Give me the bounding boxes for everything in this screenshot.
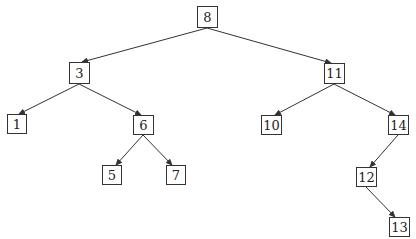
tree-node-5: 5 <box>102 165 122 185</box>
tree-node-3: 3 <box>69 62 90 84</box>
tree-node-14: 14 <box>388 115 409 135</box>
tree-node-10: 10 <box>261 115 282 135</box>
tree-node-12: 12 <box>356 167 377 187</box>
node-label: 5 <box>108 169 116 182</box>
edge-3-to-1 <box>19 84 79 114</box>
node-label: 8 <box>203 11 211 24</box>
edge-11-to-14 <box>334 84 395 115</box>
edge-12-to-13 <box>366 187 395 217</box>
node-label: 10 <box>263 119 280 132</box>
tree-node-11: 11 <box>324 63 345 84</box>
node-label: 1 <box>13 118 21 131</box>
node-label: 13 <box>391 221 408 234</box>
tree-node-13: 13 <box>389 217 410 237</box>
edge-6-to-5 <box>116 135 143 165</box>
tree-node-1: 1 <box>7 114 27 134</box>
tree-node-8: 8 <box>197 6 218 28</box>
edge-8-to-11 <box>207 28 331 63</box>
node-label: 14 <box>390 119 407 132</box>
tree-edges <box>19 28 398 217</box>
node-label: 12 <box>358 171 375 184</box>
edge-14-to-12 <box>370 135 398 167</box>
edge-11-to-10 <box>275 84 334 115</box>
node-label: 6 <box>139 119 147 132</box>
node-label: 11 <box>326 67 343 80</box>
tree-node-7: 7 <box>166 165 186 185</box>
node-label: 3 <box>75 67 83 80</box>
edge-8-to-3 <box>82 28 207 62</box>
tree-node-6: 6 <box>133 115 154 135</box>
edge-6-to-7 <box>143 135 172 165</box>
node-label: 7 <box>172 169 180 182</box>
tree-edges-layer <box>0 0 416 239</box>
edge-3-to-6 <box>79 84 141 115</box>
